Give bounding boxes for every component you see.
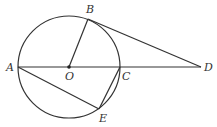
segment-ob [69, 19, 88, 67]
label-c: C [122, 70, 131, 83]
segment-bd [88, 19, 201, 67]
label-b: B [85, 3, 94, 16]
center-point-o [67, 65, 71, 69]
geometry-diagram: A O C D B E [0, 0, 217, 127]
segment-ae [18, 67, 99, 109]
diagram-svg: A O C D B E [0, 0, 217, 127]
label-o: O [65, 70, 74, 83]
label-d: D [203, 61, 213, 74]
segment-ce [99, 67, 120, 109]
label-a: A [5, 61, 14, 74]
label-e: E [98, 112, 107, 125]
